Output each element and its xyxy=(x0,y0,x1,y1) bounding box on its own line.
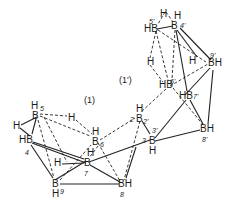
solid-bond xyxy=(176,30,187,91)
dashed-bond xyxy=(40,114,67,116)
atom-label-b9p: BH xyxy=(208,58,222,68)
dashed-bond xyxy=(156,31,168,80)
position-number-n9p: 9' xyxy=(210,52,215,59)
fragment-label-frag-1prime: (1') xyxy=(119,76,132,85)
atom-label-b4p: B xyxy=(171,21,178,31)
position-number-n7p: 7' xyxy=(193,93,198,100)
solid-bond xyxy=(155,130,200,141)
solid-bond xyxy=(208,70,213,124)
atom-label-h-b56p: H xyxy=(147,57,154,67)
atom-label-h-b45: H xyxy=(13,121,20,131)
solid-bond xyxy=(126,147,136,178)
position-number-n8p: 8' xyxy=(202,136,207,143)
atom-label-b6: B xyxy=(92,137,99,147)
dashed-bond xyxy=(124,121,140,180)
borane-cluster-diagram: HHHBBHHBHHBHBBHHBBHHBHHBHHBHBHBHBH5'4'9'… xyxy=(0,0,236,211)
position-number-n7: 7 xyxy=(84,170,88,177)
atom-label-b8p: BH xyxy=(200,124,214,134)
position-number-n9: 9 xyxy=(60,188,64,195)
atom-label-h-9: H xyxy=(52,189,59,199)
position-number-n5: 5 xyxy=(40,105,44,112)
solid-bond xyxy=(155,100,186,138)
position-number-n3: 3 xyxy=(142,137,146,144)
atom-label-b7: B xyxy=(84,158,91,168)
atom-label-h-3p: H xyxy=(149,146,156,156)
atom-label-h-b49p: H xyxy=(189,56,196,66)
atom-label-h-b45p: H xyxy=(160,9,167,19)
solid-bond xyxy=(32,119,36,134)
solid-bond xyxy=(190,100,203,124)
dashed-bond xyxy=(38,120,54,178)
atom-label-h-b56: H xyxy=(68,113,75,123)
position-number-n6: 6 xyxy=(100,141,104,148)
position-number-n2p: 2' xyxy=(143,118,148,125)
position-number-n6p: 6' xyxy=(170,78,175,85)
atom-label-b5p: HB xyxy=(144,24,158,34)
dashed-bond xyxy=(76,120,92,134)
atom-label-b2p: B xyxy=(136,114,143,124)
position-number-n2: 2 xyxy=(130,116,134,123)
atom-label-b5: B xyxy=(32,111,39,121)
atom-label-b7p: HB xyxy=(179,91,193,101)
atom-label-b4: HB xyxy=(19,135,33,145)
dashed-bond xyxy=(40,116,90,136)
position-number-n3p: 3' xyxy=(152,127,157,134)
position-number-n4p: 4' xyxy=(180,22,185,29)
dashed-bond xyxy=(141,89,166,112)
dashed-bond xyxy=(158,30,206,62)
dashed-bond xyxy=(170,64,208,86)
atom-label-b8: BH xyxy=(118,179,132,189)
position-number-n5p: 5' xyxy=(149,18,154,25)
dashed-bond xyxy=(150,31,156,58)
position-number-n4: 4 xyxy=(25,149,29,156)
position-number-n8: 8 xyxy=(120,191,124,198)
fragment-label-frag-1: (1) xyxy=(84,96,95,105)
atom-label-h-b47: H xyxy=(54,158,61,168)
dashed-bond xyxy=(172,30,175,80)
